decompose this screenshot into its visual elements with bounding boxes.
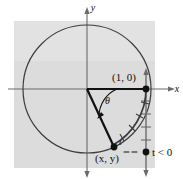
x-axis-label: x [174,83,180,94]
y-axis-arrow [84,7,89,14]
unit-circle-svg: x y (1, 0) θ t (x, y) t < 0 [0,0,183,179]
point-one-zero-label: (1, 0) [112,71,136,84]
y-axis-label: y [90,2,96,13]
number-line-point-dot [143,149,150,156]
unit-circle-figure: x y (1, 0) θ t (x, y) t < 0 [0,0,183,179]
terminal-point-label: (x, y) [95,152,119,165]
angle-label: θ [105,95,110,106]
terminal-point-dot [111,144,118,151]
number-line-value-label: t < 0 [152,146,173,158]
y-axis-arrow-down [84,171,89,178]
point-one-zero-dot [143,86,150,93]
number-line-arrow-down [143,170,148,177]
figure-panel-highlight [14,21,155,61]
